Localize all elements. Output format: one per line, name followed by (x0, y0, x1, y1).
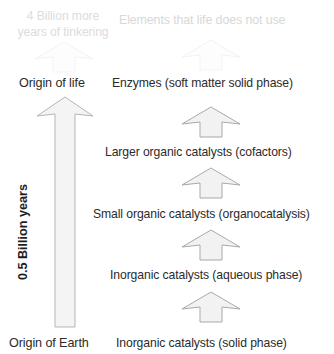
right-faded-caption: Elements that life does not use (119, 13, 285, 27)
left-faded-up-arrow (33, 40, 95, 74)
stage-label-enzymes: Enzymes (soft matter solid phase) (112, 76, 293, 90)
timeline-up-arrow (34, 95, 96, 329)
stage-label-solid-phase: Inorganic catalysts (solid phase) (116, 336, 287, 350)
right-faded-up-arrow (180, 38, 242, 72)
origin-of-life-label: Origin of life (19, 76, 85, 90)
catalysis-timeline-diagram: 4 Billion more years of tinkering Elemen… (0, 0, 334, 354)
up-arrow-to-aqueous (180, 290, 242, 324)
timeline-axis-label: 0.5 Billion years (16, 184, 30, 280)
up-arrow-to-cofactors (180, 166, 242, 200)
up-arrow-to-enzymes (180, 105, 242, 139)
stage-label-organocatalysis: Small organic catalysts (organocatalysis… (93, 207, 310, 221)
left-faded-caption-line2: years of tinkering (17, 25, 108, 39)
left-faded-caption-line1: 4 Billion more (27, 9, 99, 23)
left-faded-caption: 4 Billion more years of tinkering (8, 8, 118, 40)
up-arrow-to-organocatalysis (180, 228, 242, 262)
stage-label-aqueous: Inorganic catalysts (aqueous phase) (110, 268, 302, 282)
stage-label-cofactors: Larger organic catalysts (cofactors) (105, 145, 292, 159)
origin-of-earth-label: Origin of Earth (9, 336, 89, 350)
